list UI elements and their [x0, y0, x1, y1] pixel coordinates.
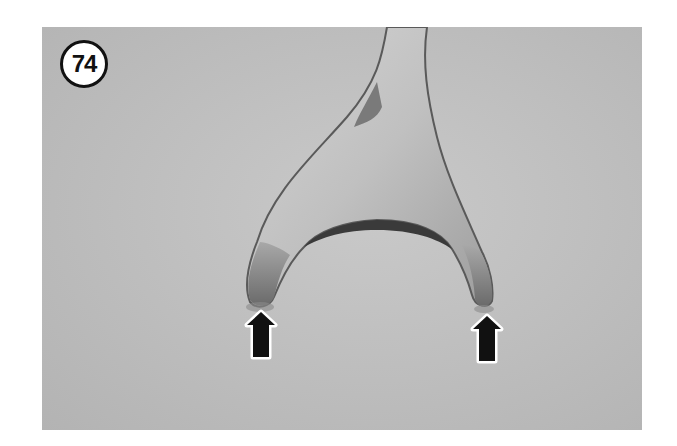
figure-photo: [42, 27, 642, 430]
right-arrow-icon: [473, 316, 501, 361]
shift-fork-illustration: [42, 27, 642, 430]
left-arrow-icon: [247, 312, 275, 357]
step-number: 74: [72, 50, 97, 78]
step-number-badge: 74: [60, 40, 108, 88]
